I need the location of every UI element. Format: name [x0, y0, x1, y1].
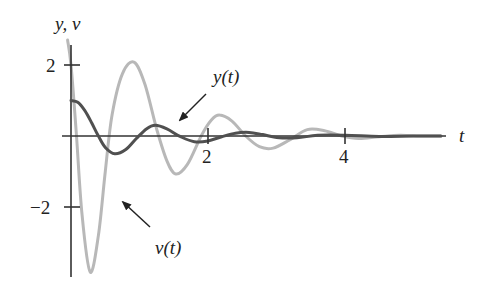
y-curve-arrow: [180, 94, 206, 120]
v-curve-arrow: [123, 202, 150, 227]
v-curve-label: v(t): [155, 237, 181, 259]
y-tick-label-2: 2: [46, 55, 56, 76]
t-axis-label: t: [459, 125, 465, 146]
t-tick-label-2: 2: [202, 146, 212, 167]
t-tick-label-4: 4: [339, 146, 349, 167]
damped-oscillation-chart: 2 −2 2 4 y, v t y(t) v(t): [0, 0, 482, 293]
y-curve-label: y(t): [211, 66, 239, 88]
y-axis-label: y, v: [53, 13, 81, 34]
v-curve: [68, 40, 441, 272]
y-tick-label-neg2: −2: [30, 197, 50, 218]
